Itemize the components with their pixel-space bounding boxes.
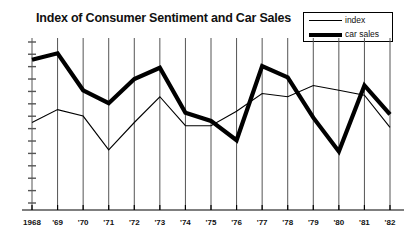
y-axis <box>28 38 36 210</box>
x-axis <box>22 205 404 210</box>
vertical-gridlines <box>58 38 390 210</box>
x-tick-label: 1968 <box>23 218 41 227</box>
x-tick-label: '69 <box>52 218 63 227</box>
x-tick-label: '72 <box>129 218 140 227</box>
x-tick-label: '78 <box>282 218 293 227</box>
x-tick-label: '75 <box>206 218 217 227</box>
x-tick-label: '77 <box>257 218 268 227</box>
x-tick-label: '82 <box>385 218 396 227</box>
x-tick-label: '73 <box>154 218 165 227</box>
x-tick-label: '70 <box>78 218 89 227</box>
x-tick-label: '81 <box>359 218 370 227</box>
plot-area <box>0 0 410 240</box>
x-tick-label: '71 <box>103 218 114 227</box>
x-tick-label: '74 <box>180 218 191 227</box>
x-tick-label: '76 <box>231 218 242 227</box>
x-tick-label: '79 <box>308 218 319 227</box>
chart-container: Index of Consumer Sentiment and Car Sale… <box>0 0 410 240</box>
x-tick-label: '80 <box>333 218 344 227</box>
